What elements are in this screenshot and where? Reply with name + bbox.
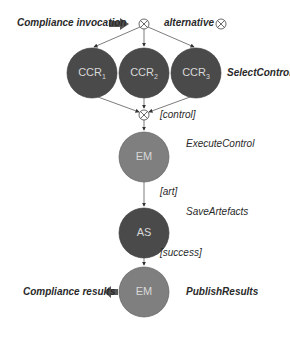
success-guard-label: [success] <box>160 247 202 258</box>
art-guard-label: [art] <box>160 186 177 197</box>
alternative-gateway-icon <box>216 19 226 29</box>
execute-control-label: ExecuteControl <box>186 138 254 149</box>
select-control-label: SelectControl <box>227 67 290 78</box>
publish-results-label: PublishResults <box>186 286 258 297</box>
ccr3-label: CCR3 <box>171 66 221 80</box>
results-label: Compliance results <box>23 286 115 297</box>
merge-gateway-icon <box>139 110 149 120</box>
em-publish-label: EM <box>119 285 169 297</box>
split-gateway-icon <box>139 19 149 29</box>
invocation-label: Compliance invocation <box>17 17 126 28</box>
legend-alternative-label: alternative <box>164 17 214 28</box>
control-guard-label: [control] <box>160 109 196 120</box>
ccr1-label: CCR1 <box>67 66 117 80</box>
ccr2-label: CCR2 <box>119 66 169 80</box>
as-save-label: AS <box>119 226 169 238</box>
em-execute-label: EM <box>119 150 169 162</box>
save-artefacts-label: SaveArtefacts <box>186 206 248 217</box>
